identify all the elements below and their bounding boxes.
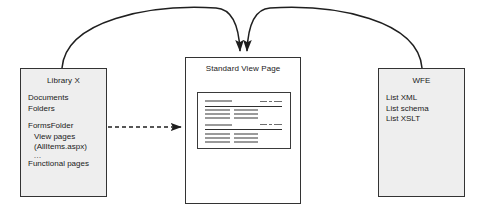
library-line-documents: Documents <box>21 93 106 104</box>
mock-header-bar <box>205 124 232 126</box>
mock-row-bar <box>205 141 230 143</box>
mock-dash <box>260 101 267 102</box>
node-wfe-title: WFE <box>379 76 464 86</box>
mock-rule <box>205 129 282 130</box>
mock-row-bar <box>205 133 230 135</box>
spacer <box>379 86 464 93</box>
spacer <box>21 86 106 93</box>
mock-row-bar <box>234 109 258 111</box>
node-wfe[interactable]: WFE List XML List schema List XSLT <box>378 68 465 197</box>
spacer <box>21 114 106 121</box>
library-line-functional-pages: Functional pages <box>21 159 106 170</box>
mock-row-bar <box>234 137 258 139</box>
mock-dash <box>274 101 282 102</box>
mock-row-bar <box>234 141 258 143</box>
wfe-line-list-xslt: List XSLT <box>379 114 464 125</box>
mock-row-bar <box>205 113 230 115</box>
library-line-view-pages: View pages <box>21 132 106 143</box>
diagram-canvas: Library X Documents Folders FormsFolder … <box>0 0 489 217</box>
node-standard-view-page[interactable]: Standard View Page <box>185 57 301 204</box>
mock-row-bar <box>234 113 258 115</box>
library-line-allitems-aspx: (AllItems.aspx) <box>21 142 106 153</box>
node-standard-view-page-title: Standard View Page <box>186 64 300 74</box>
page-preview-mockup <box>197 92 291 149</box>
library-line-formsfolder: FormsFolder <box>21 121 106 132</box>
wfe-line-list-xml: List XML <box>379 93 464 104</box>
wfe-line-list-schema: List schema <box>379 104 464 115</box>
mock-dash <box>260 124 267 125</box>
mock-row-bar <box>205 109 230 111</box>
mock-header-bar <box>205 100 232 102</box>
node-library-x[interactable]: Library X Documents Folders FormsFolder … <box>20 68 107 197</box>
mock-dash <box>269 101 272 102</box>
mock-dash <box>274 124 282 125</box>
mock-row-bar <box>234 133 258 135</box>
mock-rule <box>205 106 282 107</box>
mock-row-bar <box>234 117 258 119</box>
node-library-x-title: Library X <box>21 76 106 86</box>
mock-row-bar <box>205 137 230 139</box>
library-line-folders: Folders <box>21 104 106 115</box>
mock-row-bar <box>205 117 230 119</box>
mock-dash <box>269 124 272 125</box>
